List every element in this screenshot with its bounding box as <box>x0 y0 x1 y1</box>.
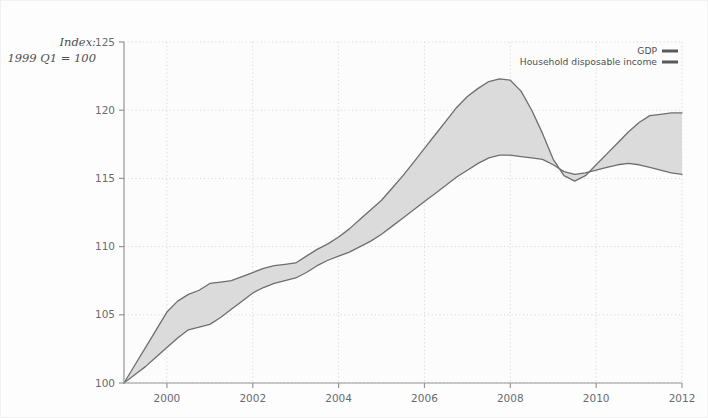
x-axis-tick-label: 2008 <box>497 392 524 404</box>
legend-label: Household disposable income <box>520 56 658 67</box>
x-axis-tick-label: 2006 <box>411 392 438 404</box>
y-axis-tick-label: 105 <box>95 308 115 320</box>
y-axis-note-line1: Index: <box>59 35 97 49</box>
y-axis-tick-label: 120 <box>95 104 115 116</box>
y-axis-tick-label: 125 <box>95 36 115 48</box>
y-axis-tick-label: 110 <box>95 240 115 252</box>
y-axis-tick-label: 115 <box>95 172 115 184</box>
x-axis-tick-label: 2010 <box>583 392 610 404</box>
x-axis-tick-label: 2004 <box>325 392 352 404</box>
index-comparison-area-chart: 1001051101151201252000200220042006200820… <box>0 0 708 418</box>
y-axis-tick-label: 100 <box>95 377 115 389</box>
legend-label: GDP <box>637 45 657 56</box>
chart-figure: 1001051101151201252000200220042006200820… <box>0 0 708 418</box>
x-axis-tick-label: 2002 <box>239 392 266 404</box>
x-axis-tick-label: 2012 <box>669 392 696 404</box>
y-axis-note-line2: 1999 Q1 = 100 <box>7 51 96 65</box>
x-axis-tick-label: 2000 <box>154 392 181 404</box>
